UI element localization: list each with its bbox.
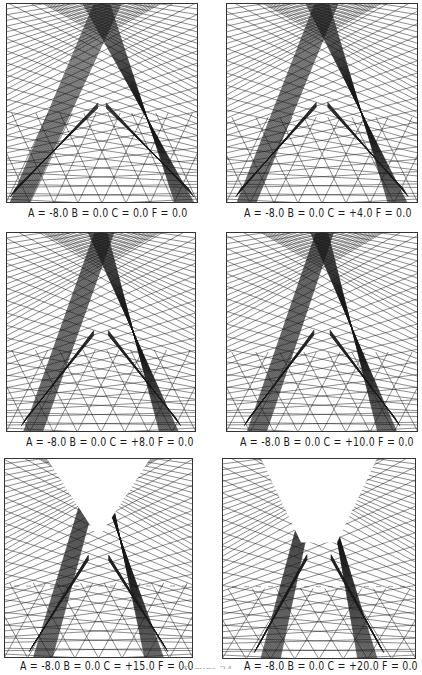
caption-c-8: A = -8.0 B = 0.0 C = +8.0 F = 0.0 xyxy=(26,435,194,448)
envelope-plot-c-20 xyxy=(222,458,416,659)
caption-c-10: A = -8.0 B = 0.0 C = +10.0 F = 0.0 xyxy=(240,435,414,448)
envelope-plot-c-10 xyxy=(226,232,418,432)
caption-c-15: A = -8.0 B = 0.0 C = +15.0 F = 0.0 xyxy=(20,659,194,672)
envelope-plot-c-0 xyxy=(6,3,198,203)
envelope-plot-c-4 xyxy=(226,3,418,203)
envelope-plot-c-8 xyxy=(6,232,196,432)
envelope-plot-c-15 xyxy=(4,458,193,658)
caption-c-4: A = -8.0 B = 0.0 C = +4.0 F = 0.0 xyxy=(244,206,412,219)
caption-c-0: A = -8.0 B = 0.0 C = 0.0 F = 0.0 xyxy=(28,206,188,219)
caption-c-20: A = -8.0 B = 0.0 C = +20.0 F = 0.0 xyxy=(244,659,418,672)
